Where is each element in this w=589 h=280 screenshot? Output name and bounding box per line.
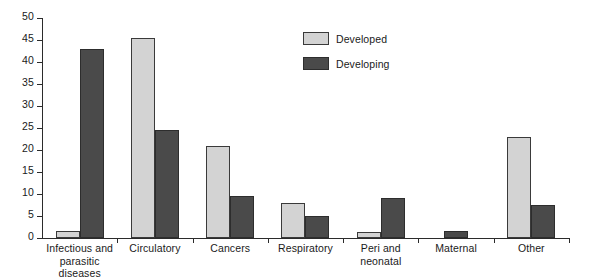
bar-group — [494, 18, 569, 238]
bar-developed — [56, 231, 80, 238]
x-tick-mark — [569, 238, 570, 243]
y-tick-label: 35 — [22, 77, 34, 88]
chart-legend: Developed Developing — [303, 30, 390, 80]
y-tick-label: 5 — [28, 209, 34, 220]
category-label: Peri and neonatal — [343, 242, 418, 267]
bar-group — [418, 18, 493, 238]
bar-developed — [281, 203, 305, 238]
bar-developing — [381, 198, 405, 238]
x-axis-line — [42, 238, 570, 239]
bar-developed — [507, 137, 531, 238]
bar-group — [117, 18, 192, 238]
bar-developing — [80, 49, 104, 238]
legend-swatch-developed-icon — [303, 32, 329, 45]
category-label: Circulatory — [117, 242, 192, 255]
category-label: Maternal — [418, 242, 493, 255]
bar-developed — [206, 146, 230, 238]
legend-item-developed: Developed — [303, 30, 390, 47]
y-tick-label: 30 — [22, 99, 34, 110]
bar-developing — [155, 130, 179, 238]
bar-group — [193, 18, 268, 238]
y-tick-label: 15 — [22, 165, 34, 176]
y-tick-label: 50 — [22, 11, 34, 22]
legend-label-developed: Developed — [336, 33, 387, 45]
y-tick-label: 45 — [22, 33, 34, 44]
y-tick-label: 40 — [22, 55, 34, 66]
bar-developing — [305, 216, 329, 238]
bar-developing — [230, 196, 254, 238]
category-label: Cancers — [193, 242, 268, 255]
category-label: Infectious and parasitic diseases — [42, 242, 117, 280]
bar-group — [42, 18, 117, 238]
bar-developed — [131, 38, 155, 238]
y-tick-label: 0 — [28, 231, 34, 242]
category-label: Respiratory — [268, 242, 343, 255]
bar-developing — [531, 205, 555, 238]
legend-item-developing: Developing — [303, 55, 390, 72]
bar-developing — [444, 231, 468, 238]
y-tick-label: 10 — [22, 187, 34, 198]
y-tick-label: 20 — [22, 143, 34, 154]
category-label: Other — [494, 242, 569, 255]
y-tick-label: 25 — [22, 121, 34, 132]
bar-developed — [357, 232, 381, 238]
legend-swatch-developing-icon — [303, 57, 329, 70]
legend-label-developing: Developing — [336, 58, 390, 70]
